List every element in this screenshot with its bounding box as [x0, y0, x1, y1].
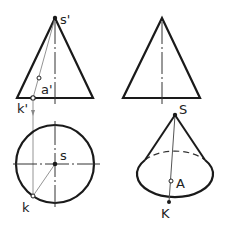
label-S: S — [179, 102, 187, 117]
top-view-left: s k — [13, 121, 100, 215]
label-k-prime: k' — [17, 101, 28, 116]
front-view-right — [123, 18, 200, 104]
label-s: s — [60, 148, 67, 163]
label-s-prime: s' — [60, 12, 70, 27]
label-k: k — [22, 200, 30, 215]
cone-3d: S A K — [137, 102, 213, 221]
label-A: A — [176, 176, 185, 191]
label-K: K — [161, 206, 170, 221]
cone-projection-diagram: s' a' k' s k S A K — [0, 0, 227, 230]
label-a-prime: a' — [41, 82, 53, 97]
